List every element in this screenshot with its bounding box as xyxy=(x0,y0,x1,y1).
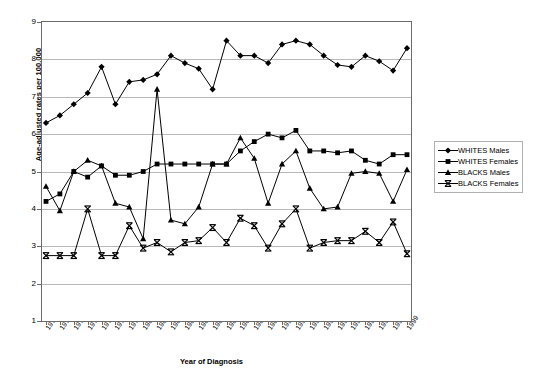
data-point-x xyxy=(209,225,215,231)
data-point-diamond xyxy=(251,53,257,59)
data-point-triangle xyxy=(57,208,63,214)
data-point-x xyxy=(84,206,90,212)
data-point-x xyxy=(126,223,132,229)
data-point-square xyxy=(155,162,160,167)
data-point-triangle xyxy=(390,198,396,204)
data-point-square xyxy=(113,173,118,178)
data-point-square xyxy=(335,150,340,155)
y-axis-label: 7 xyxy=(22,92,36,101)
data-point-square xyxy=(446,159,451,164)
legend-marker-triangle-icon xyxy=(438,167,458,178)
data-point-triangle xyxy=(154,86,160,92)
data-point-diamond xyxy=(376,58,382,64)
data-point-x xyxy=(445,181,451,187)
plot-area xyxy=(41,21,412,322)
data-point-diamond xyxy=(43,120,49,126)
data-point-diamond xyxy=(182,60,188,66)
series-whites-males xyxy=(43,38,410,126)
data-point-triangle xyxy=(307,185,313,191)
series-line xyxy=(46,209,407,256)
data-point-square xyxy=(252,139,257,144)
y-axis-label: 9 xyxy=(22,17,36,26)
data-point-triangle xyxy=(293,148,299,154)
y-axis-label: 8 xyxy=(22,54,36,63)
data-point-x xyxy=(293,206,299,212)
data-point-square xyxy=(363,158,368,163)
data-point-square xyxy=(182,162,187,167)
data-point-square xyxy=(44,199,49,204)
data-point-square xyxy=(169,162,174,167)
data-point-square xyxy=(57,192,62,197)
data-point-x xyxy=(251,223,257,229)
legend-marker-x-icon xyxy=(438,178,458,189)
data-point-square xyxy=(141,169,146,174)
data-point-diamond xyxy=(98,64,104,70)
data-point-x xyxy=(265,245,271,251)
data-point-square xyxy=(307,149,312,154)
series-line xyxy=(46,41,407,123)
data-point-x xyxy=(237,215,243,221)
data-point-triangle xyxy=(85,157,91,163)
data-point-diamond xyxy=(445,147,451,153)
data-point-x xyxy=(279,221,285,227)
legend-item: WHITES Females xyxy=(438,156,518,167)
data-point-triangle xyxy=(265,200,271,206)
data-point-square xyxy=(349,149,354,154)
data-point-square xyxy=(196,162,201,167)
data-point-diamond xyxy=(210,86,216,92)
data-point-triangle xyxy=(362,168,368,174)
data-point-x xyxy=(390,219,396,225)
data-point-x xyxy=(154,240,160,246)
y-axis-label: 4 xyxy=(22,204,36,213)
x-axis-title: Year of Diagnosis xyxy=(180,357,243,366)
legend-label: WHITES Females xyxy=(458,157,518,166)
legend-marker-square-icon xyxy=(438,156,458,167)
data-point-diamond xyxy=(404,45,410,51)
series-blacks-females xyxy=(43,206,410,259)
data-point-triangle xyxy=(112,200,118,206)
data-point-square xyxy=(266,132,271,137)
data-point-square xyxy=(377,162,382,167)
y-axis-label: 6 xyxy=(22,129,36,138)
data-point-diamond xyxy=(140,77,146,83)
data-point-triangle xyxy=(43,183,49,189)
data-point-square xyxy=(238,149,243,154)
data-point-diamond xyxy=(126,79,132,85)
data-point-diamond xyxy=(293,38,299,44)
data-point-x xyxy=(404,251,410,257)
data-point-diamond xyxy=(196,66,202,72)
data-point-x xyxy=(307,245,313,251)
data-point-triangle xyxy=(445,169,451,175)
data-point-square xyxy=(321,149,326,154)
y-axis-label: 5 xyxy=(22,167,36,176)
data-point-square xyxy=(127,173,132,178)
data-point-x xyxy=(362,228,368,234)
legend-label: WHITES Males xyxy=(458,146,509,155)
y-axis-label: 1 xyxy=(22,316,36,325)
legend-item: WHITES Males xyxy=(438,145,518,156)
data-point-triangle xyxy=(237,135,243,141)
data-point-triangle xyxy=(140,236,146,242)
data-point-x xyxy=(376,240,382,246)
y-axis-label: 2 xyxy=(22,279,36,288)
data-point-square xyxy=(85,175,90,180)
data-point-x xyxy=(168,249,174,255)
data-point-square xyxy=(280,135,285,140)
legend-item: BLACKS Males xyxy=(438,167,518,178)
legend-item: BLACKS Females xyxy=(438,178,518,189)
data-point-triangle xyxy=(196,204,202,210)
legend: WHITES MalesWHITES FemalesBLACKS MalesBL… xyxy=(434,141,523,193)
data-point-diamond xyxy=(334,62,340,68)
series-blacks-males xyxy=(43,86,410,241)
data-point-square xyxy=(405,152,410,157)
data-point-x xyxy=(223,240,229,246)
data-point-square xyxy=(294,128,299,133)
data-point-diamond xyxy=(112,101,118,107)
legend-marker-diamond-icon xyxy=(438,145,458,156)
data-point-diamond xyxy=(390,67,396,73)
legend-label: BLACKS Males xyxy=(458,168,510,177)
y-axis-label: 3 xyxy=(22,241,36,250)
data-point-triangle xyxy=(168,217,174,223)
series-layer xyxy=(42,22,411,321)
chart-figure: Age-adjusted rates per 100,000 123456789… xyxy=(0,0,542,381)
